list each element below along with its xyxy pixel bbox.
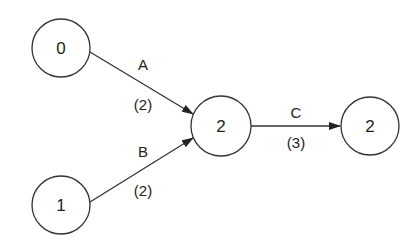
edge-b: B (2)	[90, 138, 193, 202]
node-2-right: 2	[341, 97, 399, 155]
node-1-label: 1	[56, 196, 65, 215]
node-0: 0	[32, 19, 90, 77]
edge-c-weight: (3)	[287, 134, 305, 151]
edge-c: C (3)	[251, 104, 340, 151]
activity-graph-diagram: A (2) B (2) C (3) 0 1 2	[0, 0, 417, 250]
edge-b-name: B	[138, 143, 148, 160]
edge-a: A (2)	[90, 52, 193, 114]
edge-c-name: C	[291, 104, 302, 121]
node-1: 1	[32, 176, 90, 234]
edge-a-weight: (2)	[134, 96, 152, 113]
node-2-middle: 2	[191, 96, 251, 156]
node-2-right-label: 2	[365, 117, 374, 136]
edge-b-weight: (2)	[134, 182, 152, 199]
node-2-middle-label: 2	[216, 117, 225, 136]
edge-a-name: A	[138, 56, 148, 73]
node-0-label: 0	[56, 39, 65, 58]
